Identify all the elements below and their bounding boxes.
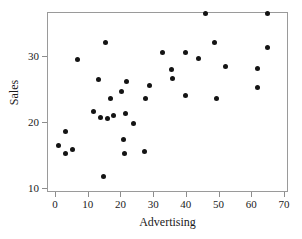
y-tick-mark [42, 188, 47, 189]
x-tick-mark [88, 192, 89, 197]
data-point [160, 50, 165, 55]
x-tick-label: 40 [173, 198, 199, 211]
data-point [56, 143, 61, 148]
data-point [63, 151, 68, 156]
data-point [96, 77, 101, 82]
data-point [196, 56, 201, 61]
x-tick-label: 0 [42, 198, 68, 211]
data-point [147, 83, 152, 88]
data-point [265, 11, 270, 16]
x-tick-label: 20 [107, 198, 133, 211]
data-point [121, 137, 126, 142]
data-point [214, 96, 219, 101]
data-point [122, 151, 127, 156]
data-point [101, 174, 106, 179]
y-axis-label: Sales [7, 63, 22, 123]
data-point [183, 93, 188, 98]
y-tick-label: 10 [14, 182, 39, 194]
x-tick-mark [153, 192, 154, 197]
x-axis-label: Advertising [47, 215, 288, 230]
x-tick-label: 10 [75, 198, 101, 211]
y-tick-label: 30 [14, 50, 39, 62]
data-point [75, 57, 80, 62]
x-tick-label: 50 [206, 198, 232, 211]
x-tick-mark [120, 192, 121, 197]
data-point [103, 40, 108, 45]
x-tick-mark [55, 192, 56, 197]
data-point [203, 11, 208, 16]
x-tick-label: 30 [140, 198, 166, 211]
data-point [183, 50, 188, 55]
x-tick-label: 60 [238, 198, 264, 211]
x-tick-mark [186, 192, 187, 197]
x-tick-mark [219, 192, 220, 197]
y-tick-mark [42, 122, 47, 123]
data-point [119, 89, 124, 94]
data-point [105, 116, 110, 121]
data-point [169, 67, 174, 72]
data-point [265, 45, 270, 50]
data-point [98, 115, 103, 120]
data-point [223, 64, 228, 69]
data-point [124, 79, 129, 84]
x-tick-label: 70 [271, 198, 297, 211]
data-point [142, 149, 147, 154]
data-point [255, 85, 260, 90]
data-point [91, 109, 96, 114]
data-point [108, 96, 113, 101]
data-point [63, 129, 68, 134]
x-tick-mark [284, 192, 285, 197]
data-point [255, 66, 260, 71]
y-tick-mark [42, 56, 47, 57]
data-point [70, 147, 75, 152]
data-point [170, 76, 175, 81]
x-tick-mark [251, 192, 252, 197]
scatter-plot-figure: 010203040506070 102030 Advertising Sales [0, 0, 302, 239]
plot-data-area [47, 12, 288, 192]
data-point [131, 121, 136, 126]
data-point [123, 111, 128, 116]
data-point [212, 40, 217, 45]
data-point [143, 96, 148, 101]
data-point [111, 113, 116, 118]
